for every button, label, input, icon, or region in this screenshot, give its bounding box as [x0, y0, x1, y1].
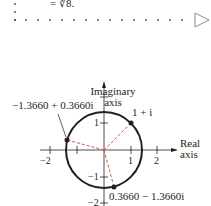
y-tick-neg2: −2 [88, 198, 99, 206]
point-label-1-plus-i: 1 + i [132, 107, 152, 118]
real-axis-label: Real axis [180, 138, 200, 160]
x-tick-2: 2 [154, 156, 159, 166]
x-tick-neg2: −2 [40, 156, 51, 166]
real-axis-arrow-icon [171, 148, 178, 152]
y-tick-neg1: −1 [88, 172, 99, 182]
y-tick-1: 1 [94, 118, 99, 128]
imaginary-axis-label: Imaginary axis [87, 86, 139, 108]
leader-line [58, 114, 66, 137]
point-1-plus-i [129, 121, 134, 126]
x-tick-1: 1 [128, 156, 133, 166]
point-label-neg1366-plus-0366i: −1.3660 + 0.3660i [12, 100, 93, 111]
point-label-0366-minus-1366i: 0.3660 − 1.3660i [109, 191, 184, 202]
point-0366-minus-1366i [112, 185, 117, 190]
point-neg1366-plus-0366i [65, 138, 70, 143]
